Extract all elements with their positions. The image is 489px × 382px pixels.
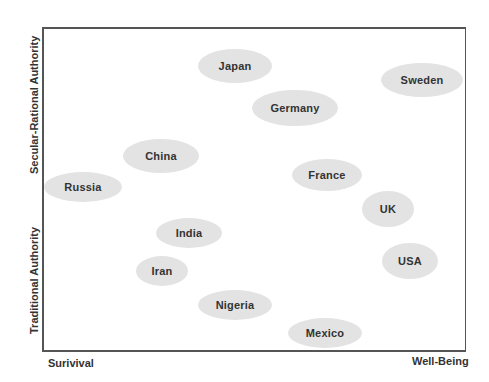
country-ellipse-japan: Japan [198,49,272,83]
country-ellipse-india: India [156,218,222,248]
country-ellipse-uk: UK [362,191,414,227]
country-label: USA [398,255,422,267]
country-label: China [145,150,177,162]
country-label: Japan [219,60,252,72]
y-axis-top-label: Secular-Rational Authority [28,36,40,174]
country-ellipse-china: China [123,139,199,173]
x-axis-right-label: Well-Being [412,355,469,367]
country-label: India [176,227,203,239]
country-label: Germany [270,102,319,114]
country-label: Iran [152,265,173,277]
country-ellipse-usa: USA [382,243,438,279]
country-ellipse-russia: Russia [44,172,122,202]
country-label: Sweden [401,74,444,86]
country-label: Nigeria [216,299,255,311]
country-label: France [308,169,345,181]
country-label: Mexico [306,327,345,339]
country-ellipse-nigeria: Nigeria [198,290,272,320]
country-label: Russia [64,181,101,193]
country-label: UK [380,203,396,215]
country-ellipse-france: France [292,159,362,191]
y-axis-bottom-label: Traditional Authority [28,227,40,334]
country-ellipse-mexico: Mexico [288,318,362,348]
country-ellipse-germany: Germany [252,90,338,126]
country-ellipse-iran: Iran [136,256,188,286]
country-ellipse-sweden: Sweden [381,63,463,97]
x-axis-left-label: Surivival [48,357,94,369]
